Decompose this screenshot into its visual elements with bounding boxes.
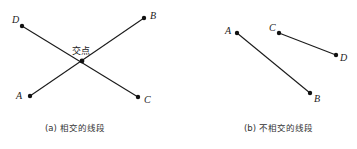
point-a-D <box>20 24 24 28</box>
point-a-A <box>28 94 32 98</box>
segment-b-AB <box>237 33 310 93</box>
figure-a: D B A C 交点 (a) 相交的线段 <box>11 10 156 133</box>
intersection-point <box>80 59 85 64</box>
point-b-B <box>308 91 312 95</box>
point-a-C <box>136 95 140 99</box>
point-b-D <box>334 53 338 57</box>
label-b-D: D <box>339 52 348 63</box>
label-a-C: C <box>144 94 151 105</box>
caption-b: (b) 不相交的线段 <box>244 123 313 133</box>
point-b-C <box>277 31 281 35</box>
label-a-D: D <box>11 14 20 25</box>
segment-a-AB <box>30 18 144 96</box>
label-a-A: A <box>15 90 23 101</box>
label-b-B: B <box>314 93 320 104</box>
intersection-label: 交点 <box>72 45 90 56</box>
label-b-C: C <box>269 22 276 33</box>
figure-b: A B C D (b) 不相交的线段 <box>224 22 348 133</box>
point-b-A <box>235 31 239 35</box>
label-a-B: B <box>150 10 156 21</box>
point-a-B <box>142 16 146 20</box>
segment-diagram: D B A C 交点 (a) 相交的线段 A B C D (b) 不相交的线段 <box>0 0 357 149</box>
segment-b-CD <box>279 33 336 55</box>
caption-a: (a) 相交的线段 <box>45 123 105 133</box>
label-b-A: A <box>224 25 232 36</box>
